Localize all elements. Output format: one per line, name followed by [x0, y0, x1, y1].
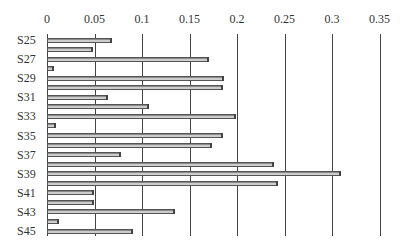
bar-end-cap [119, 152, 121, 157]
category-label: S43 [17, 204, 36, 219]
bar-end-cap [52, 66, 54, 71]
bar-s29 [47, 76, 223, 81]
bar-end-cap [57, 219, 59, 224]
bar-end-cap [221, 133, 223, 138]
bar-end-cap [339, 171, 341, 176]
x-tick-label: 0.15 [179, 12, 200, 27]
category-label: S33 [17, 109, 36, 124]
bar-s36 [47, 143, 211, 148]
bar-s34 [47, 123, 55, 128]
bar-end-cap [234, 114, 236, 119]
bar-s33 [47, 114, 235, 119]
bar-s37 [47, 152, 120, 157]
bar-end-cap [173, 209, 175, 214]
bar-s41 [47, 190, 93, 195]
x-tick-label: 0.3 [325, 12, 340, 27]
bar-end-cap [222, 76, 224, 81]
x-tick-label: 0 [44, 12, 50, 27]
x-tick-label: 0.1 [135, 12, 150, 27]
x-tick-label: 0.35 [369, 12, 390, 27]
category-label: S39 [17, 166, 36, 181]
category-label: S41 [17, 185, 36, 200]
bar-s31 [47, 95, 107, 100]
x-tick-label: 0.05 [84, 12, 105, 27]
bar-end-cap [131, 229, 133, 234]
x-tick-label: 0.25 [274, 12, 295, 27]
gridline [237, 34, 238, 236]
bar-s26 [47, 47, 92, 52]
bar-end-cap [54, 123, 56, 128]
bar-s39 [47, 171, 340, 176]
bar-end-cap [106, 95, 108, 100]
category-label: S27 [17, 52, 36, 67]
category-label: S35 [17, 128, 36, 143]
bar-end-cap [92, 190, 94, 195]
bar-end-cap [91, 47, 93, 52]
bar-end-cap [92, 200, 94, 205]
category-label: S25 [17, 33, 36, 48]
category-label: S29 [17, 71, 36, 86]
bar-s38 [47, 162, 273, 167]
bar-s30 [47, 85, 222, 90]
bar-s35 [47, 133, 222, 138]
bar-s45 [47, 229, 132, 234]
bar-s44 [47, 219, 58, 224]
x-tick-label: 0.2 [230, 12, 245, 27]
bar-end-cap [221, 85, 223, 90]
category-label: S45 [17, 224, 36, 239]
gridline [380, 34, 381, 236]
bar-end-cap [210, 143, 212, 148]
bar-s42 [47, 200, 93, 205]
gridline [332, 34, 333, 236]
bar-end-cap [207, 57, 209, 62]
horizontal-bar-chart: 00.050.10.150.20.250.30.35S25S27S29S31S3… [0, 0, 402, 248]
category-label: S31 [17, 90, 36, 105]
bar-s27 [47, 57, 208, 62]
bar-s40 [47, 181, 277, 186]
gridline [285, 34, 286, 236]
bar-end-cap [147, 104, 149, 109]
bar-end-cap [276, 181, 278, 186]
bar-s32 [47, 104, 148, 109]
category-label: S37 [17, 147, 36, 162]
bar-s43 [47, 209, 174, 214]
bar-s28 [47, 66, 53, 71]
bar-s25 [47, 38, 111, 43]
bar-end-cap [272, 162, 274, 167]
bar-end-cap [110, 38, 112, 43]
